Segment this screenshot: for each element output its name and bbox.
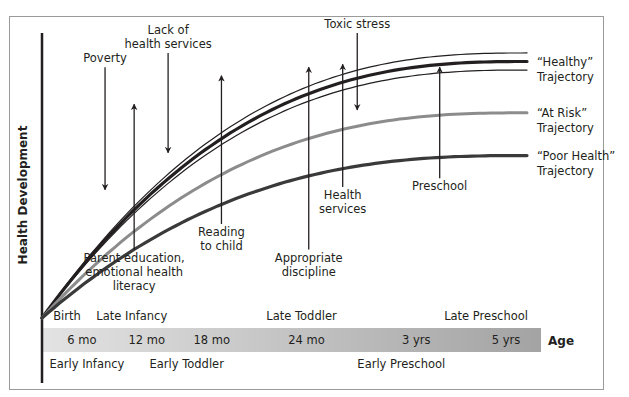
annotation-label: Poverty — [83, 51, 127, 65]
annotation-label: Parent education, — [84, 251, 185, 265]
annotation-label: Reading — [198, 225, 245, 239]
annotation-label: services — [319, 202, 366, 216]
stage-label-above: Late Toddler — [266, 309, 337, 323]
stage-label-above: Late Infancy — [96, 309, 167, 323]
annotation-label: Health — [324, 188, 362, 202]
age-tick-label: 24 mo — [288, 333, 325, 347]
y-axis-title: Health Development — [16, 125, 30, 264]
stage-label-below: Early Toddler — [149, 357, 224, 371]
age-tick-label: 6 mo — [67, 333, 96, 347]
trajectory-label-at-risk: Trajectory — [536, 121, 594, 135]
annotation-label: discipline — [282, 265, 336, 279]
annotation-label: emotional health — [85, 265, 183, 279]
stage-label-below: Early Infancy — [49, 357, 124, 371]
age-tick-label: 5 yrs — [492, 333, 521, 347]
age-tick-label: 3 yrs — [402, 333, 431, 347]
trajectory-label-at-risk: “At Risk” — [537, 106, 587, 120]
trajectory-label-healthy-main: Trajectory — [536, 70, 594, 84]
age-tick-label: 18 mo — [193, 333, 230, 347]
annotation-label: health services — [124, 37, 211, 51]
annotation-label: to child — [200, 239, 243, 253]
annotation-label: Preschool — [412, 179, 467, 193]
stage-label-above: Late Preschool — [444, 309, 528, 323]
annotation-label: Lack of — [148, 23, 190, 37]
stage-label-above: Birth — [53, 309, 81, 323]
trajectory-label-poor-health: Trajectory — [536, 164, 594, 178]
health-trajectory-diagram: Health Development Age “Healthy”Trajecto… — [0, 0, 629, 397]
annotation-label: Appropriate — [275, 251, 343, 265]
age-tick-label: 12 mo — [129, 333, 166, 347]
x-axis-title: Age — [548, 334, 574, 348]
trajectory-label-healthy-main: “Healthy” — [537, 55, 593, 69]
annotation-label: Toxic stress — [323, 17, 390, 31]
annotation-label: literacy — [113, 279, 156, 293]
stage-label-below: Early Preschool — [357, 357, 445, 371]
trajectory-label-poor-health: “Poor Health” — [537, 149, 615, 163]
